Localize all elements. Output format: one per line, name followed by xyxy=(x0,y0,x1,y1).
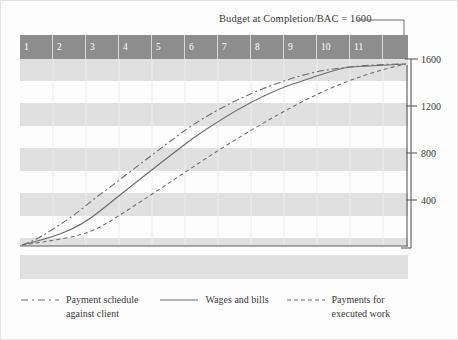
fine-dash-line-icon xyxy=(287,294,325,306)
month-cell: 4 xyxy=(119,35,152,59)
month-cell: 1 xyxy=(20,35,53,59)
y-tick-label: 800 xyxy=(421,148,436,159)
legend-label: Wages and bills xyxy=(205,293,268,307)
month-cell: 3 xyxy=(86,35,119,59)
month-cell: 9 xyxy=(284,35,317,59)
legend-item-payment-schedule: Payment schedule against client xyxy=(21,293,138,320)
series-plot xyxy=(20,59,408,291)
bac-annotation-label: Budget at Completion/BAC = 1600 xyxy=(219,13,372,24)
plot-area xyxy=(20,59,408,291)
legend-item-wages-and-bills: Wages and bills xyxy=(160,293,268,307)
y-tick-label: 1600 xyxy=(421,54,441,65)
chart-legend: Payment schedule against client Wages an… xyxy=(21,293,441,320)
legend-label: Payments for executed work xyxy=(332,293,391,320)
legend-item-payments-executed: Payments for executed work xyxy=(287,293,391,320)
dash-dot-line-icon xyxy=(21,294,59,306)
chart-page: Budget at Completion/BAC = 1600 1 2 3 4 … xyxy=(0,0,458,340)
series-payment-schedule xyxy=(22,64,406,245)
month-cell: 10 xyxy=(317,35,350,59)
month-cell: 6 xyxy=(185,35,218,59)
month-header-row: 1 2 3 4 5 6 7 8 9 10 11 xyxy=(20,35,408,59)
month-cell: 2 xyxy=(53,35,86,59)
y-tick-label: 1200 xyxy=(421,101,441,112)
y-tick-label: 400 xyxy=(421,195,436,206)
series-payments-executed xyxy=(22,64,406,245)
month-cell: 8 xyxy=(251,35,284,59)
series-wages-and-bills xyxy=(22,64,406,245)
month-cell: 7 xyxy=(218,35,251,59)
legend-label: Payment schedule against client xyxy=(66,293,138,320)
month-cell: 5 xyxy=(152,35,185,59)
month-cell: 11 xyxy=(350,35,383,59)
solid-line-icon xyxy=(160,294,198,306)
